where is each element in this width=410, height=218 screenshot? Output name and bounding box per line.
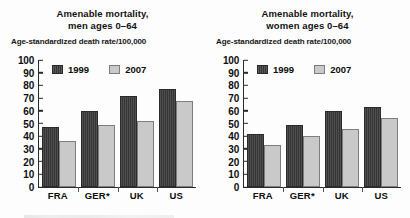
plot-area-men: 1009080706050403020100 FRAGER*UKUS 19992…: [0, 0, 205, 218]
y-tick-mark: [39, 148, 43, 149]
bar-ger-2007: [98, 125, 115, 187]
axes-women: 1009080706050403020100: [243, 60, 401, 188]
x-tick-mark: [118, 187, 119, 192]
y-tick-label: 10: [23, 169, 39, 180]
y-tick-label: 30: [23, 143, 39, 154]
bar-fra-2007: [264, 145, 281, 187]
light-swatch-icon: [109, 65, 120, 74]
y-tick-label: 20: [228, 156, 244, 167]
bar-uk-2007: [137, 121, 154, 187]
bar-uk-2007: [342, 129, 359, 187]
x-axis-labels-women: FRAGER*UKUS: [243, 190, 401, 201]
y-tick-mark: [244, 72, 248, 73]
axis-note-men: Age-standardized death rate/100,000: [11, 37, 205, 46]
bar-groups-men: [39, 60, 196, 187]
x-axis-label-uk: UK: [322, 190, 362, 201]
y-tick-label: 90: [23, 67, 39, 78]
dark-swatch-icon: [52, 65, 63, 74]
y-tick-label: 70: [23, 93, 39, 104]
y-tick-label: 100: [18, 55, 39, 66]
x-axis-label-fra: FRA: [38, 190, 78, 201]
x-tick-mark: [78, 187, 79, 192]
bar-group: [39, 60, 78, 187]
y-tick-mark: [244, 161, 248, 162]
y-tick-mark: [244, 174, 248, 175]
axes-men: 1009080706050403020100: [38, 60, 196, 188]
light-swatch-icon: [314, 65, 325, 74]
bar-fra-1999: [42, 127, 59, 187]
x-tick-mark: [157, 187, 158, 192]
y-tick-label: 40: [228, 131, 244, 142]
y-tick-label: 80: [228, 80, 244, 91]
y-tick-mark: [39, 161, 43, 162]
y-tick-mark: [244, 148, 248, 149]
y-tick-mark: [39, 72, 43, 73]
axis-note-women: Age-standardized death rate/100,000: [216, 37, 410, 46]
legend-item-1999: 1999: [257, 64, 294, 75]
y-tick-label: 60: [23, 105, 39, 116]
bar-fra-1999: [247, 134, 264, 187]
bar-us-2007: [381, 118, 398, 187]
y-tick-label: 0: [234, 182, 244, 193]
x-axis-label-fra: FRA: [243, 190, 283, 201]
y-tick-mark: [39, 135, 43, 136]
y-tick-label: 40: [23, 131, 39, 142]
x-tick-mark: [283, 187, 284, 192]
bar-uk-1999: [325, 111, 342, 187]
y-tick-mark: [244, 85, 248, 86]
figure-page: Amenable mortality, men ages 0–64 Age-st…: [0, 0, 410, 218]
x-tick-mark: [362, 187, 363, 192]
bar-group: [362, 60, 401, 187]
legend-item-2007: 2007: [109, 64, 146, 75]
x-axis-label-ger: GER*: [283, 190, 323, 201]
bar-us-2007: [176, 101, 193, 187]
y-tick-mark: [39, 59, 43, 60]
x-axis-label-us: US: [362, 190, 402, 201]
legend-label: 2007: [330, 64, 351, 75]
y-tick-mark: [244, 135, 248, 136]
y-tick-mark: [39, 110, 43, 111]
y-tick-label: 50: [228, 118, 244, 129]
y-tick-mark: [244, 110, 248, 111]
chart-title-men: Amenable mortality, men ages 0–64: [0, 0, 205, 31]
plot-area-women: 1009080706050403020100 FRAGER*UKUS 19992…: [205, 0, 410, 218]
legend-item-1999: 1999: [52, 64, 89, 75]
legend-men: 19992007: [52, 64, 146, 75]
y-tick-label: 90: [228, 67, 244, 78]
x-axis-label-us: US: [157, 190, 197, 201]
bar-fra-2007: [59, 141, 76, 187]
chart-panel-women: Amenable mortality, women ages 0–64 Age-…: [205, 0, 410, 218]
y-tick-mark: [39, 97, 43, 98]
bar-us-1999: [159, 89, 176, 187]
legend-label: 2007: [125, 64, 146, 75]
chart-panel-men: Amenable mortality, men ages 0–64 Age-st…: [0, 0, 205, 218]
y-tick-label: 50: [23, 118, 39, 129]
bar-ger-1999: [81, 111, 98, 187]
y-tick-mark: [244, 59, 248, 60]
x-axis-label-uk: UK: [117, 190, 157, 201]
bar-uk-1999: [120, 96, 137, 187]
y-tick-mark: [39, 123, 43, 124]
x-tick-mark: [323, 187, 324, 192]
legend-item-2007: 2007: [314, 64, 351, 75]
bar-group: [157, 60, 196, 187]
y-tick-label: 30: [228, 143, 244, 154]
y-tick-mark: [244, 123, 248, 124]
x-axis-labels-men: FRAGER*UKUS: [38, 190, 196, 201]
y-tick-label: 60: [228, 105, 244, 116]
y-tick-label: 10: [228, 169, 244, 180]
legend-label: 1999: [273, 64, 294, 75]
y-tick-mark: [244, 186, 248, 187]
bar-group: [283, 60, 322, 187]
y-tick-label: 100: [223, 55, 244, 66]
bar-ger-1999: [286, 125, 303, 187]
x-axis-label-ger: GER*: [78, 190, 118, 201]
bar-group: [244, 60, 283, 187]
bar-ger-2007: [303, 136, 320, 187]
y-tick-mark: [39, 174, 43, 175]
chart-title-women: Amenable mortality, women ages 0–64: [205, 0, 410, 31]
y-tick-mark: [39, 186, 43, 187]
bar-us-1999: [364, 107, 381, 187]
y-tick-label: 80: [23, 80, 39, 91]
page-bottom-artifact: [24, 215, 174, 218]
